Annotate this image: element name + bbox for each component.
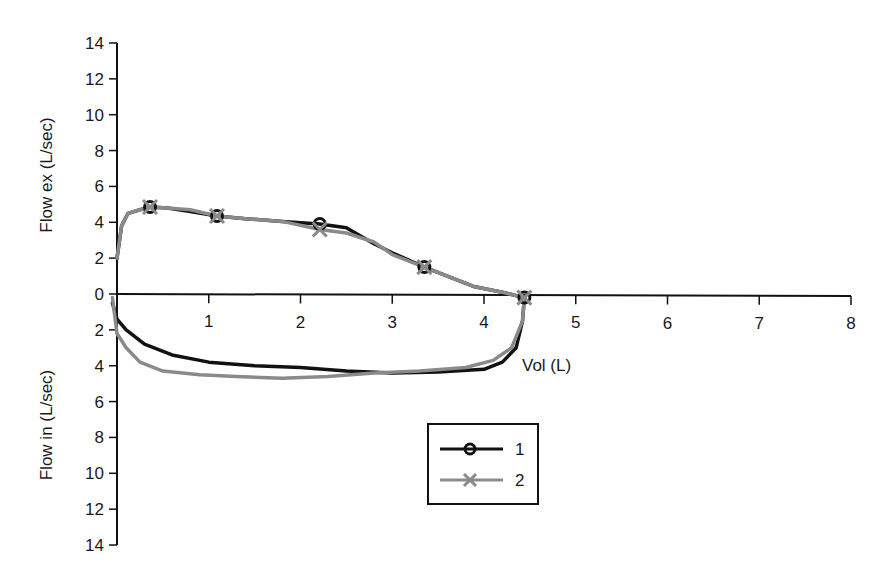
y-tick-label: 10 — [85, 464, 104, 483]
y-tick-label: 14 — [85, 536, 104, 555]
y-tick-label: 8 — [95, 428, 104, 447]
x-tick-label: 5 — [571, 313, 580, 332]
y-axis-title-lower: Flow in (L/sec) — [37, 370, 56, 481]
y-tick-label: 14 — [85, 34, 104, 53]
legend-label-1: 1 — [515, 440, 524, 459]
y-tick-label: 12 — [85, 70, 104, 89]
x-axis-title: Vol (L) — [522, 356, 571, 375]
x-tick-label: 1 — [204, 312, 213, 331]
series-2-inspiratory-line — [112, 298, 524, 379]
x-tick-label: 3 — [388, 313, 397, 332]
y-tick-label: 8 — [95, 142, 104, 161]
x-tick-label: 2 — [296, 313, 305, 332]
y-tick-label: 12 — [85, 500, 104, 519]
y-tick-label: 2 — [95, 321, 104, 340]
x-tick-label: 6 — [663, 314, 672, 333]
y-tick-label: 10 — [85, 106, 104, 125]
legend: 1 2 — [428, 424, 538, 504]
y-tick-label: 0 — [95, 285, 104, 304]
legend-label-2: 2 — [515, 471, 524, 490]
y-tick-label: 4 — [95, 213, 104, 232]
y-tick-label: 2 — [95, 249, 104, 268]
series-2-expiratory-line — [117, 207, 524, 298]
legend-box — [428, 424, 538, 504]
flow-volume-chart: 14121086420246810121412345678 Flow ex (L… — [0, 0, 890, 579]
x-tick-label: 7 — [755, 314, 764, 333]
series-1-inspiratory-line — [112, 298, 524, 373]
series-layer — [112, 200, 531, 378]
y-tick-label: 4 — [95, 357, 104, 376]
x-tick-label: 8 — [846, 314, 855, 333]
y-tick-label: 6 — [95, 177, 104, 196]
x-tick-label: 4 — [479, 313, 488, 332]
y-axis-title-upper: Flow ex (L/sec) — [37, 117, 56, 232]
y-tick-label: 6 — [95, 393, 104, 412]
